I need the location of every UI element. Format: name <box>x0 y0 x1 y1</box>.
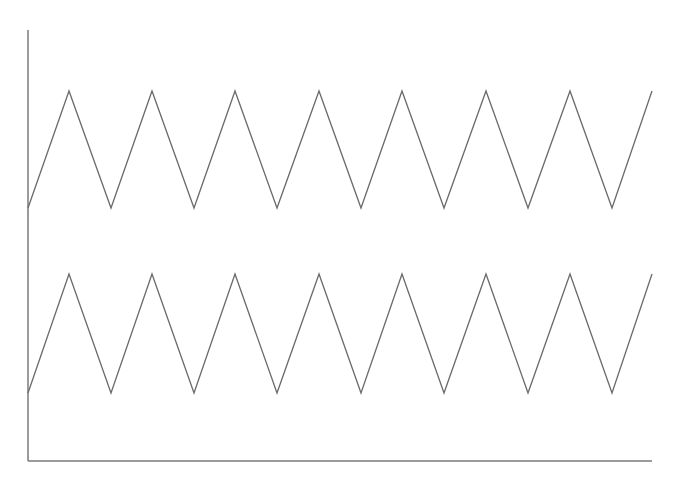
triangle-wave-chart <box>0 0 681 482</box>
upper-wave-line <box>28 91 652 208</box>
lower-wave-line <box>28 274 652 393</box>
